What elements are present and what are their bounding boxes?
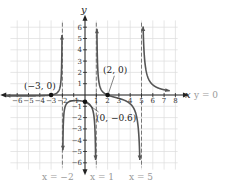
y-axis-label: y bbox=[80, 4, 87, 15]
curve-arrow-icon bbox=[94, 155, 98, 160]
y-tick-label: 6 bbox=[78, 24, 83, 32]
x-tick-label: 2 bbox=[105, 97, 109, 105]
x-tick-label: −4 bbox=[35, 97, 46, 105]
h-asymptote-label: y = 0 bbox=[193, 90, 218, 100]
y-axis-arrow-up-icon bbox=[83, 15, 88, 21]
point-label-0-neg0.6: (0, −0.6) bbox=[96, 113, 136, 123]
rational-function-graph: −6−5−4−3−2−112345678654321−1−2−3−4−5−6 x… bbox=[0, 0, 232, 184]
x-tick-label: 3 bbox=[117, 97, 121, 105]
x-tick-label: 8 bbox=[173, 97, 177, 105]
leader-line-2-0 bbox=[109, 76, 115, 93]
x-axis-arrow-left-icon bbox=[0, 93, 6, 98]
y-tick-label: −2 bbox=[72, 114, 82, 122]
y-tick-label: 5 bbox=[78, 35, 82, 43]
y-tick-label: 2 bbox=[78, 69, 82, 77]
curve-arrow-icon bbox=[6, 94, 11, 98]
y-tick-label: 1 bbox=[78, 80, 82, 88]
curve-arrow-icon bbox=[61, 146, 65, 151]
y-tick-label: 3 bbox=[78, 58, 82, 66]
x-tick-label: −2 bbox=[57, 97, 67, 105]
y-tick-label: −4 bbox=[72, 137, 83, 145]
v-asymptote-label-5: x = 5 bbox=[129, 172, 153, 182]
x-tick-label: −6 bbox=[12, 97, 23, 105]
x-tick-label: 6 bbox=[151, 97, 156, 105]
curve-arrow-icon bbox=[60, 35, 64, 40]
y-tick-label: −3 bbox=[72, 125, 82, 133]
key-point-dot bbox=[105, 93, 110, 98]
x-axis-label: x bbox=[185, 89, 191, 100]
y-tick-label: 4 bbox=[78, 46, 83, 54]
curve-branch-right bbox=[143, 26, 170, 90]
point-label-2-0: (2, 0) bbox=[103, 65, 127, 75]
curve-arrow-icon bbox=[95, 29, 99, 34]
y-tick-label: −5 bbox=[72, 148, 82, 156]
key-point-dot bbox=[49, 93, 54, 98]
v-asymptote-label-1: x = 1 bbox=[90, 172, 114, 182]
y-tick-label: −1 bbox=[72, 103, 82, 111]
x-tick-label: −3 bbox=[46, 97, 56, 105]
x-tick-label: 7 bbox=[162, 97, 166, 105]
y-axis-arrow-down-icon bbox=[83, 169, 88, 175]
point-label-neg3-0: (−3, 0) bbox=[24, 81, 56, 91]
y-tick-label: −6 bbox=[72, 159, 83, 167]
x-tick-label: 4 bbox=[128, 97, 133, 105]
v-asymptote-label-neg2: x = −2 bbox=[42, 172, 74, 182]
x-tick-label: −5 bbox=[23, 97, 33, 105]
x-tick-label: 5 bbox=[139, 97, 143, 105]
x-tick-label: 1 bbox=[94, 97, 98, 105]
